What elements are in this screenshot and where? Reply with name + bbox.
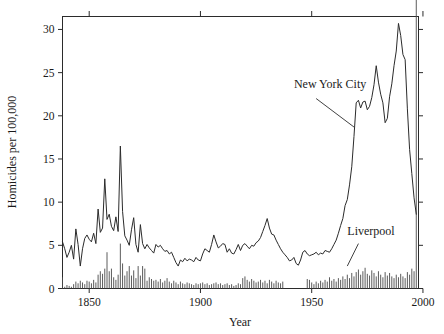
y-tick-label: 0 [49, 283, 55, 295]
liverpool-bar-series [63, 0, 417, 289]
homicide-rate-chart: Homicides per 100,000 Year 051015202530 … [0, 0, 444, 334]
annotation-leader-line [347, 244, 358, 266]
annotation-leader-line [316, 99, 354, 127]
y-tick-label: 10 [43, 196, 55, 208]
x-tick-label: 1950 [300, 296, 323, 308]
y-tick-label: 25 [43, 67, 55, 79]
plot-frame [63, 17, 419, 289]
y-axis-label: Homicides per 100,000 [5, 96, 19, 208]
x-axis-label: Year [229, 315, 251, 329]
x-axis-label-group: Year [229, 315, 251, 329]
x-tick-label: 2000 [411, 296, 434, 308]
y-tick-label: 30 [43, 23, 55, 35]
series-annotations: New York CityLiverpool [294, 77, 395, 266]
y-tick-label: 5 [49, 239, 55, 251]
y-tick-label: 15 [43, 153, 55, 165]
annotation-label-liverpool: Liverpool [347, 224, 395, 238]
annotation-label-new-york-city: New York City [294, 77, 366, 91]
chart-canvas: Homicides per 100,000 Year 051015202530 … [0, 0, 444, 334]
y-axis-label-group: Homicides per 100,000 [5, 96, 19, 208]
x-axis-ticks: 1850190019502000 [78, 11, 435, 308]
y-tick-label: 20 [43, 110, 55, 122]
x-tick-label: 1900 [189, 296, 212, 308]
x-tick-label: 1850 [78, 296, 101, 308]
